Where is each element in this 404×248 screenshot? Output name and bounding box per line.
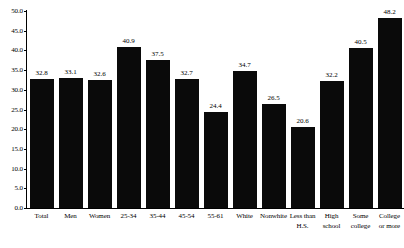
bar[interactable] [233, 71, 257, 208]
y-axis-tick-label: 30.0 [0, 85, 27, 95]
y-axis-tick-label: 25.0 [0, 105, 27, 115]
bar-slot: 32.8 [30, 11, 54, 208]
y-axis-tick-label: 50.0 [0, 6, 27, 16]
y-axis-tick-label: 45.0 [0, 26, 27, 36]
bar[interactable] [291, 127, 315, 208]
bar-slot: 40.5 [349, 11, 373, 208]
bar-slot: 20.6 [291, 11, 315, 208]
bar-value-label: 37.5 [140, 50, 176, 59]
bar-slot: 34.7 [233, 11, 257, 208]
x-axis-labels: TotalMenWomen25-3435-4445-5455-61WhiteNo… [27, 210, 404, 248]
bar[interactable] [378, 18, 402, 208]
bar-slot: 37.5 [146, 11, 170, 208]
bar-chart: 0.05.010.015.020.025.030.035.040.045.050… [0, 0, 404, 248]
bar-value-label: 40.9 [111, 37, 147, 46]
y-axis-tick-label: 10.0 [0, 164, 27, 174]
y-axis-tick-label: 15.0 [0, 144, 27, 154]
bar[interactable] [59, 78, 83, 208]
bar-value-label: 26.5 [256, 94, 292, 103]
bar[interactable] [88, 80, 112, 208]
y-axis-tick-label: 40.0 [0, 45, 27, 55]
bar-value-label: 40.5 [343, 38, 379, 47]
plot-area: 32.833.132.640.937.532.724.434.726.520.6… [27, 11, 404, 208]
bar[interactable] [204, 112, 228, 208]
bar[interactable] [30, 79, 54, 208]
y-axis-tick-label: 5.0 [0, 183, 27, 193]
y-axis-tick-mark [24, 208, 27, 209]
bar-slot: 32.7 [175, 11, 199, 208]
bar-slot: 32.2 [320, 11, 344, 208]
bar-value-label: 34.7 [227, 61, 263, 70]
bar[interactable] [175, 79, 199, 208]
bar[interactable] [262, 104, 286, 208]
bar-slot: 32.6 [88, 11, 112, 208]
bar-slot: 26.5 [262, 11, 286, 208]
bar[interactable] [117, 47, 141, 208]
bar-value-label: 32.2 [314, 71, 350, 80]
bar-value-label: 32.7 [169, 69, 205, 78]
bar-value-label: 20.6 [285, 117, 321, 126]
x-axis-line [26, 208, 404, 209]
bar-slot: 40.9 [117, 11, 141, 208]
bar[interactable] [349, 48, 373, 208]
bar-value-label: 24.4 [198, 102, 234, 111]
bar[interactable] [146, 60, 170, 208]
bar-value-label: 48.2 [372, 8, 404, 17]
bar-slot: 48.2 [378, 11, 402, 208]
y-axis-tick-label: 20.0 [0, 124, 27, 134]
bar[interactable] [320, 81, 344, 208]
bar-slot: 24.4 [204, 11, 228, 208]
bar-value-label: 32.6 [82, 70, 118, 79]
bar-slot: 33.1 [59, 11, 83, 208]
x-axis-tick-label: College or more [371, 212, 404, 231]
